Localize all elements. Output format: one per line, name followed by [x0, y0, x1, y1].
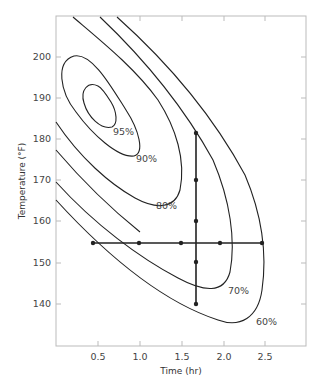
design-point [137, 241, 141, 245]
contour-labels: 95% 90% 80% 70% 60% [113, 126, 277, 327]
x-tick-label: 2.5 [257, 351, 272, 362]
y-tick-label: 160 [33, 215, 51, 226]
y-tick-label: 180 [33, 133, 51, 144]
design-point [194, 260, 198, 264]
contour-70-lower [56, 150, 140, 232]
y-axis-title: Temperature (°F) [17, 143, 27, 221]
y-tick-label: 150 [33, 257, 51, 268]
contour-90 [62, 56, 140, 156]
contour-label-90: 90% [136, 153, 157, 164]
design-point [194, 131, 198, 135]
x-tick-label: 2.0 [216, 351, 231, 362]
contour-label-70: 70% [228, 285, 249, 296]
design-points [91, 131, 264, 306]
contour-label-95: 95% [113, 126, 134, 137]
design-point [91, 241, 95, 245]
y-tick-label: 140 [33, 298, 51, 309]
design-point [194, 219, 198, 223]
y-tick-label: 170 [33, 174, 51, 185]
y-tick-label: 200 [33, 51, 51, 62]
design-point [194, 302, 198, 306]
x-tick-label: 0.5 [90, 351, 105, 362]
design-point [194, 178, 198, 182]
design-point [218, 241, 222, 245]
design-point [260, 241, 264, 245]
x-tick-label: 1.0 [132, 351, 147, 362]
x-tick-label: 1.5 [174, 351, 189, 362]
x-tick-labels: 0.5 1.0 1.5 2.0 2.5 [90, 351, 272, 362]
y-tick-labels: 140 150 160 170 180 190 200 [33, 51, 51, 309]
contour-lines [56, 17, 264, 323]
x-axis-title: Time (hr) [159, 366, 201, 376]
contour-label-80: 80% [156, 200, 177, 211]
contour-95 [83, 85, 116, 128]
contour-chart: 0.5 1.0 1.5 2.0 2.5 140 150 160 170 180 … [0, 0, 325, 388]
contour-60 [56, 17, 264, 323]
y-tick-label: 190 [33, 92, 51, 103]
chart-svg: 0.5 1.0 1.5 2.0 2.5 140 150 160 170 180 … [0, 0, 325, 388]
contour-label-60: 60% [256, 316, 277, 327]
contour-lines-lower [56, 150, 140, 232]
design-point [179, 241, 183, 245]
